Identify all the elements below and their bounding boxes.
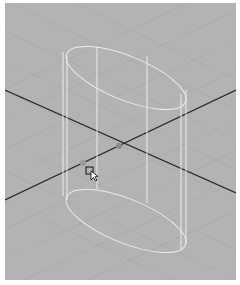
cylinder-bottom-cap [58, 177, 193, 266]
viewport-canvas[interactable] [5, 3, 236, 280]
3d-viewport[interactable] [5, 3, 236, 280]
cylinder-wireframe[interactable] [58, 34, 193, 266]
select-cursor-icon [85, 166, 101, 182]
cylinder-top-cap [58, 34, 193, 123]
origin-pivot-dot [116, 143, 122, 149]
axis-x-line [5, 90, 236, 193]
